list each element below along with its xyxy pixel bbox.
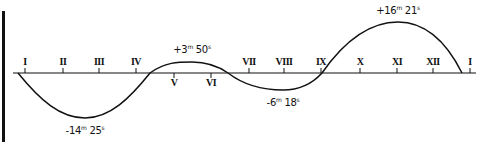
extremum-value-label: +16m 21s <box>376 6 420 16</box>
extremum-value-label: +3m 50s <box>173 45 211 55</box>
month-label: II <box>60 57 67 67</box>
month-label: VI <box>206 78 216 88</box>
month-label: V <box>171 78 178 88</box>
month-label: IX <box>316 57 326 67</box>
month-label: XII <box>426 57 440 67</box>
extremum-value-label: -6m 18s <box>267 98 300 108</box>
month-label: VII <box>242 57 256 67</box>
equation-of-time-curve <box>18 22 462 118</box>
month-label: XI <box>392 57 402 67</box>
month-label: VIII <box>276 57 293 67</box>
month-label: III <box>94 57 104 67</box>
month-label: X <box>357 57 364 67</box>
month-label: IV <box>131 57 141 67</box>
month-label: I <box>23 57 26 67</box>
month-label: I <box>468 57 471 67</box>
equation-of-time-diagram <box>0 0 479 142</box>
extremum-value-label: -14m 25s <box>66 126 105 136</box>
